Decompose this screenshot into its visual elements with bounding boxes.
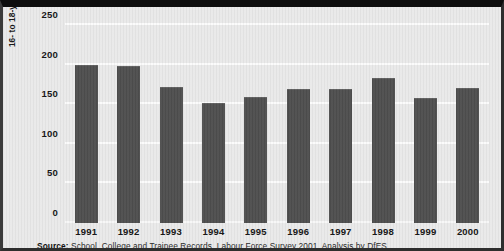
bar — [160, 87, 183, 223]
bar-slot — [150, 25, 192, 223]
bar-slot — [65, 25, 107, 223]
bar — [117, 66, 140, 223]
x-tick-label: 1991 — [65, 226, 107, 240]
bar-slot — [447, 25, 489, 223]
bar — [414, 98, 437, 223]
y-tick-label: 0 — [53, 207, 58, 218]
bar — [287, 89, 310, 223]
y-axis-title: 16- to 18-year-olds not in education, tr… — [5, 0, 31, 51]
y-tick-label: 150 — [42, 88, 58, 99]
source-label: Source: — [37, 241, 69, 251]
x-tick-label: 1994 — [192, 226, 234, 240]
x-tick-label: 1998 — [362, 226, 404, 240]
x-tick-label: 1996 — [277, 226, 319, 240]
bar-slot — [277, 25, 319, 223]
bar — [329, 89, 352, 223]
x-tick-label: 2000 — [447, 226, 489, 240]
x-tick-label: 1993 — [150, 226, 192, 240]
x-tick-label: 1992 — [107, 226, 149, 240]
y-tick-label: 250 — [42, 9, 58, 20]
plot-area: 050100150200250 — [65, 25, 489, 223]
source-note: Source: School, College and Trainee Reco… — [37, 241, 387, 251]
bar — [75, 65, 98, 223]
x-tick-label: 1999 — [404, 226, 446, 240]
bar-slot — [319, 25, 361, 223]
bar-series — [65, 25, 489, 223]
bar-slot — [362, 25, 404, 223]
y-tick-label: 100 — [42, 127, 58, 138]
bar — [372, 78, 395, 223]
bar-slot — [404, 25, 446, 223]
bar — [202, 103, 225, 223]
bar — [456, 88, 479, 223]
x-tick-label: 1997 — [319, 226, 361, 240]
chart-figure: 16- to 18-year-olds not in education, tr… — [0, 0, 504, 251]
bar-slot — [107, 25, 149, 223]
x-axis-labels: 1991199219931994199519961997199819992000 — [65, 226, 489, 240]
bar — [244, 97, 267, 223]
bar-slot — [192, 25, 234, 223]
y-tick-label: 50 — [47, 167, 58, 178]
source-text: School, College and Trainee Records, Lab… — [69, 241, 387, 251]
y-tick-label: 200 — [42, 48, 58, 59]
bar-slot — [235, 25, 277, 223]
x-tick-label: 1995 — [235, 226, 277, 240]
